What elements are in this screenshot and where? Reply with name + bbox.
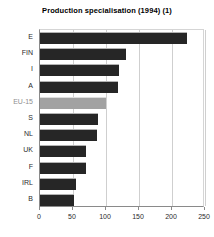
- y-axis-label-s: S: [28, 112, 33, 124]
- x-axis-labels: 050100150200250: [0, 210, 214, 224]
- plot-area: [39, 29, 204, 207]
- bars-layer: [40, 30, 203, 206]
- y-axis-label-a: A: [28, 80, 33, 92]
- x-axis-label-150: 150: [132, 213, 144, 220]
- x-tick-mark-50: [72, 207, 73, 210]
- y-axis-label-eu-15: EU-15: [13, 96, 33, 108]
- bar-fin[interactable]: [40, 48, 126, 60]
- x-axis-label-250: 250: [198, 213, 210, 220]
- y-axis-label-f: F: [29, 161, 33, 173]
- x-tick-mark-250: [204, 207, 205, 210]
- bar-b[interactable]: [40, 194, 74, 206]
- x-tick-mark-150: [138, 207, 139, 210]
- bar-nl[interactable]: [40, 129, 97, 141]
- y-axis-label-nl: NL: [24, 128, 33, 140]
- x-tick-mark-0: [39, 207, 40, 210]
- gridline-250: [205, 30, 206, 206]
- bar-eu-15[interactable]: [40, 97, 106, 109]
- y-axis-label-i: I: [31, 63, 33, 75]
- y-axis-labels: EFINIAEU-15SNLUKFIRLB: [0, 29, 36, 207]
- y-axis-label-fin: FIN: [22, 47, 33, 59]
- bar-chart: Production specialisation (1994) (1) EFI…: [0, 0, 214, 237]
- y-axis-label-uk: UK: [23, 144, 33, 156]
- x-axis-label-100: 100: [99, 213, 111, 220]
- x-tick-mark-200: [171, 207, 172, 210]
- bar-f[interactable]: [40, 162, 86, 174]
- bar-uk[interactable]: [40, 145, 86, 157]
- x-tick-mark-100: [105, 207, 106, 210]
- bar-e[interactable]: [40, 32, 187, 44]
- x-axis-label-50: 50: [68, 213, 76, 220]
- bar-s[interactable]: [40, 113, 98, 125]
- bar-i[interactable]: [40, 64, 119, 76]
- x-axis-label-200: 200: [165, 213, 177, 220]
- x-axis-label-0: 0: [37, 213, 41, 220]
- y-axis-label-e: E: [28, 31, 33, 43]
- y-axis-label-irl: IRL: [22, 177, 33, 189]
- chart-title: Production specialisation (1994) (1): [0, 6, 214, 15]
- bar-a[interactable]: [40, 81, 118, 93]
- bar-irl[interactable]: [40, 178, 76, 190]
- y-axis-label-b: B: [28, 193, 33, 205]
